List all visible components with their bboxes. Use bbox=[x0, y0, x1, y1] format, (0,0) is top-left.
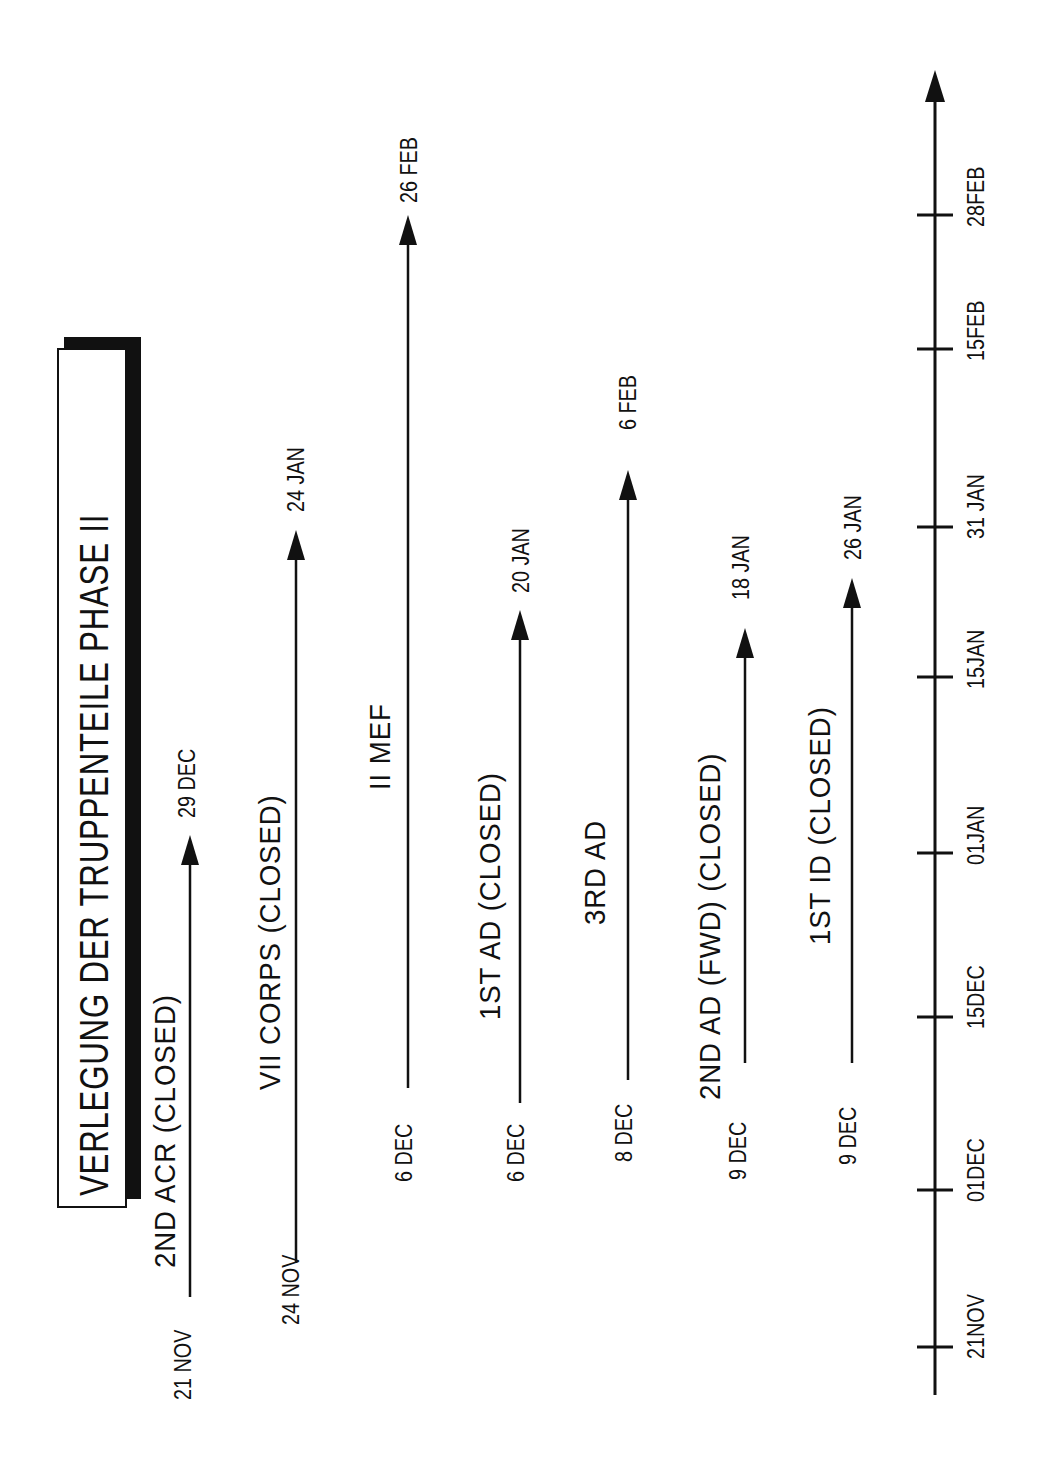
end-date-label: 26 JAN bbox=[842, 495, 865, 560]
axis-arrow-icon bbox=[925, 70, 945, 102]
axis-tick-label: 01DEC bbox=[965, 1138, 988, 1202]
bar-arrow-icon bbox=[511, 610, 529, 640]
start-date-label: 9 DEC bbox=[727, 1122, 750, 1180]
axis-tick-label: 31 JAN bbox=[965, 474, 988, 539]
axis-tick-label: 15JAN bbox=[965, 630, 988, 689]
unit-label: 1ST ID (CLOSED) bbox=[805, 706, 835, 945]
unit-label: 2ND AD (FWD) (CLOSED) bbox=[695, 753, 725, 1100]
axis-tick-label: 01JAN bbox=[965, 806, 988, 865]
start-date-label: 6 DEC bbox=[505, 1124, 528, 1182]
unit-label: 1ST AD (CLOSED) bbox=[475, 772, 505, 1020]
axis-tick-label: 21NOV bbox=[965, 1294, 988, 1359]
axis-tick-label: 15DEC bbox=[965, 965, 988, 1029]
unit-label: VII CORPS (CLOSED) bbox=[255, 794, 285, 1090]
end-date-label: 29 DEC bbox=[176, 749, 199, 818]
bar-arrow-icon bbox=[181, 835, 199, 865]
end-date-label: 26 FEB bbox=[398, 137, 421, 203]
bar-arrow-icon bbox=[843, 578, 861, 608]
end-date-label: 24 JAN bbox=[285, 447, 308, 512]
bar-arrow-icon bbox=[619, 470, 637, 500]
start-date-label: 24 NOV bbox=[280, 1255, 303, 1325]
axis-tick-label: 15FEB bbox=[965, 301, 988, 361]
axis-tick-label: 28FEB bbox=[965, 167, 988, 227]
bar-arrow-icon bbox=[399, 215, 417, 245]
start-date-label: 9 DEC bbox=[837, 1107, 860, 1165]
start-date-label: 21 NOV bbox=[172, 1330, 195, 1400]
end-date-label: 6 FEB bbox=[617, 375, 640, 430]
bar-arrow-icon bbox=[287, 530, 305, 560]
end-date-label: 20 JAN bbox=[510, 528, 533, 593]
start-date-label: 6 DEC bbox=[393, 1124, 416, 1182]
unit-label: 3RD AD bbox=[580, 820, 610, 925]
unit-label: 2ND ACR (CLOSED) bbox=[150, 994, 180, 1268]
unit-label: II MEF bbox=[365, 703, 395, 790]
end-date-label: 18 JAN bbox=[730, 535, 753, 600]
bar-arrow-icon bbox=[736, 628, 754, 658]
start-date-label: 8 DEC bbox=[613, 1104, 636, 1162]
